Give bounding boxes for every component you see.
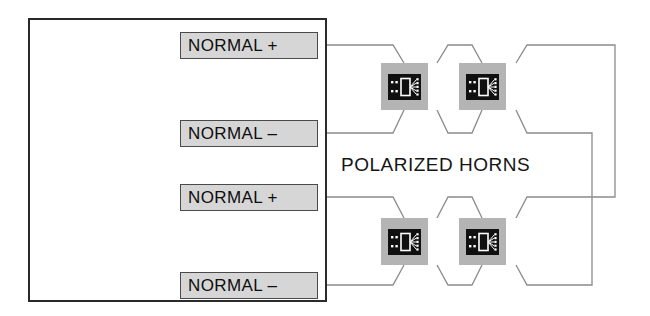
polarized-horn-icon — [466, 229, 499, 255]
wire-horn2-to-horn3-right-bus — [516, 45, 615, 218]
polarized-horns-label: POLARIZED HORNS — [341, 154, 530, 176]
wire-horn1-to-horn2-bottom — [437, 110, 482, 133]
terminal-normal-minus-1[interactable]: NORMAL – — [180, 120, 318, 147]
wire-terminal3-to-horn3 — [327, 197, 404, 218]
polarized-horn-1[interactable] — [381, 63, 428, 110]
polarized-horn-2[interactable] — [459, 63, 506, 110]
wire-horn3-to-horn4-top — [437, 197, 482, 218]
terminal-normal-minus-2[interactable]: NORMAL – — [180, 272, 318, 299]
wire-horn1-to-horn2-top — [437, 45, 482, 63]
wire-terminal4-to-horn3 — [327, 265, 404, 285]
polarized-horn-icon — [388, 229, 421, 255]
terminal-label: NORMAL + — [188, 36, 278, 56]
wire-terminal2-to-horn1 — [327, 110, 404, 133]
wire-horn3-to-horn4-bottom — [437, 265, 482, 285]
polarized-horn-icon — [466, 74, 499, 100]
polarized-horn-3[interactable] — [381, 218, 428, 265]
terminal-normal-plus-2[interactable]: NORMAL + — [180, 184, 318, 211]
polarized-horn-icon — [388, 74, 421, 100]
wire-terminal1-to-horn1 — [327, 45, 404, 63]
control-panel — [28, 18, 327, 302]
wiring-diagram: NORMAL + NORMAL – NORMAL + NORMAL – — [0, 0, 650, 316]
polarized-horn-4[interactable] — [459, 218, 506, 265]
terminal-label: NORMAL – — [188, 124, 277, 144]
terminal-normal-plus-1[interactable]: NORMAL + — [180, 32, 318, 59]
terminal-label: NORMAL + — [188, 188, 278, 208]
terminal-label: NORMAL – — [188, 276, 277, 296]
